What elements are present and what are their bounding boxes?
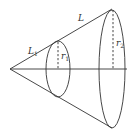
label-L: L [77,13,84,23]
cone-diagram: L1 L r1 r2 [0,0,129,130]
lower-slant-line [10,69,112,128]
label-L1: L1 [27,46,38,57]
